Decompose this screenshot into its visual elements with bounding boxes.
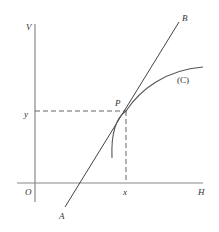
point-P-label: P: [114, 98, 121, 108]
tangent-diagram: V H O P x y A B (C): [0, 0, 219, 232]
y-coordinate-label: y: [23, 109, 28, 119]
horizontal-axis-label: H: [197, 187, 205, 197]
vertical-axis-label: V: [26, 22, 33, 32]
line-end-B-label: B: [182, 13, 188, 23]
x-coordinate-label: x: [122, 187, 127, 197]
curve-C-label: (C): [177, 75, 189, 85]
line-end-A-label: A: [58, 211, 65, 221]
origin-label: O: [25, 187, 32, 197]
